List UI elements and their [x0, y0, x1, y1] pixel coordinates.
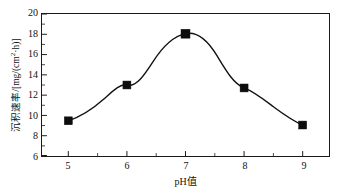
- data-point-marker: [123, 81, 131, 89]
- x-axis-major-ticks: [68, 151, 302, 156]
- y-axis-title-superscript: 2: [9, 53, 17, 57]
- deposition-rate-vs-ph-chart: 20 18 16 14 12 10 8 6 沉积速率/[mg/(cm2·h)]: [0, 0, 337, 194]
- data-markers: [64, 29, 306, 129]
- data-point-marker: [299, 121, 307, 129]
- data-point-marker: [240, 84, 248, 92]
- data-point-marker: [181, 29, 190, 38]
- y-axis-minor-ticks: [42, 24, 45, 146]
- y-tick-label: 12: [28, 90, 38, 100]
- x-tick-label: 5: [56, 161, 80, 171]
- y-axis-title-suffix: ·h)]: [11, 39, 21, 53]
- plot-area: [41, 13, 330, 157]
- x-tick-label: 8: [233, 161, 257, 171]
- y-tick-label: 16: [28, 49, 38, 59]
- x-axis-tick-labels: 5 6 7 8 9: [0, 161, 337, 175]
- y-tick-label: 18: [28, 29, 38, 39]
- x-tick-label: 9: [292, 161, 316, 171]
- plot-svg: [42, 14, 329, 156]
- y-axis-title: 沉积速率/[mg/(cm2·h)]: [8, 10, 22, 160]
- x-axis-title: pH值: [41, 176, 330, 187]
- x-tick-label: 7: [174, 161, 198, 171]
- y-axis-title-prefix: 沉积速率/[mg/(cm: [11, 56, 21, 131]
- x-tick-label: 6: [115, 161, 139, 171]
- y-tick-label: 10: [28, 111, 38, 121]
- data-series-line: [68, 33, 302, 125]
- y-tick-label: 8: [33, 131, 38, 141]
- data-point-marker: [64, 117, 72, 125]
- y-tick-label: 20: [28, 8, 38, 18]
- y-tick-label: 14: [28, 70, 38, 80]
